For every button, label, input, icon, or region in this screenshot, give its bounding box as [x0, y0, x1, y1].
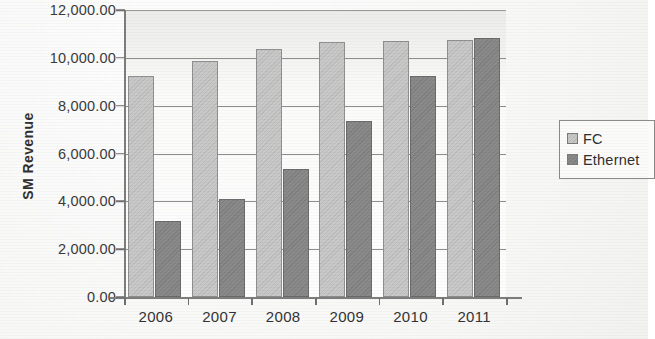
y-axis-tick-mark: [116, 248, 125, 250]
x-axis-tick-label: 2006: [124, 308, 188, 325]
legend-label: Ethernet: [583, 152, 639, 168]
y-axis-tick-label: 10,000.00: [12, 50, 116, 66]
bar-ethernet-2008: [283, 169, 309, 297]
x-axis-tick-label: 2010: [379, 308, 443, 325]
legend-swatch-fc: [567, 133, 578, 144]
bar-ethernet-2010: [410, 76, 436, 297]
x-axis-tick-mark: [506, 298, 508, 305]
legend-item-ethernet: Ethernet: [567, 149, 648, 170]
y-axis-tick-mark: [116, 105, 125, 107]
y-axis-tick-label: 0.00: [12, 289, 116, 305]
bar-ethernet-2009: [346, 121, 372, 297]
x-axis-tick-label: 2008: [251, 308, 315, 325]
legend-label: FC: [583, 131, 603, 147]
y-axis-tick-labels: 0.002,000.004,000.006,000.008,000.0010,0…: [12, 0, 116, 339]
bar-ethernet-2006: [155, 221, 181, 297]
bar-ethernet-2011: [474, 38, 500, 297]
y-axis-tick-mark: [116, 153, 125, 155]
y-axis-tick-mark: [116, 201, 125, 203]
x-axis-tick-label: 2009: [315, 308, 379, 325]
y-axis-tick-mark: [116, 57, 125, 59]
bar-fc-2007: [192, 61, 218, 297]
x-axis-tick-label: 2011: [442, 308, 506, 325]
x-axis-tick-mark: [124, 298, 126, 305]
y-axis-tick-label: 6,000.00: [12, 146, 116, 162]
gridline: [124, 10, 506, 11]
y-axis-tick-label: 12,000.00: [12, 2, 116, 18]
y-axis-tick-label: 4,000.00: [12, 193, 116, 209]
x-axis-tick-mark: [442, 298, 444, 305]
y-axis-tick-label: 8,000.00: [12, 98, 116, 114]
plot-area: [124, 10, 506, 297]
x-axis-tick-mark: [251, 298, 253, 305]
x-axis-tick-mark: [188, 298, 190, 305]
legend-swatch-ethernet: [567, 154, 578, 165]
bar-fc-2011: [447, 40, 473, 297]
x-axis-tick-label: 2007: [188, 308, 252, 325]
bar-fc-2009: [319, 42, 345, 297]
bar-fc-2006: [128, 76, 154, 297]
x-axis-tick-mark: [315, 298, 317, 305]
bar-fc-2008: [256, 49, 282, 297]
x-axis-tick-mark: [379, 298, 381, 305]
y-axis-tick-label: 2,000.00: [12, 241, 116, 257]
legend-item-fc: FC: [567, 128, 648, 149]
y-axis-tick-mark: [116, 9, 125, 11]
chart-legend: FCEthernet: [559, 120, 655, 179]
bar-fc-2010: [383, 41, 409, 297]
bar-ethernet-2007: [219, 199, 245, 297]
